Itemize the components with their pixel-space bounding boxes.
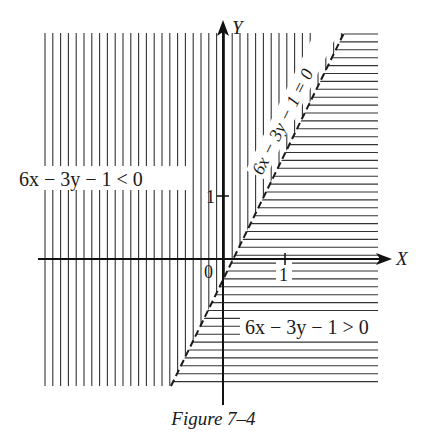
y-tick-label: 1 [206, 187, 215, 207]
x-axis-label: X [395, 248, 409, 269]
origin-label: 0 [204, 262, 213, 282]
y-axis-label: Y [232, 17, 245, 38]
x-tick-label: 1 [279, 265, 288, 285]
region-less-label: 6x − 3y − 1 < 0 [19, 168, 143, 191]
inequality-region-diagram: Y X 0 1 1 6x − 3y − 1 < 0 6x − 3y − 1 > … [0, 0, 427, 440]
region-greater-label: 6x − 3y − 1 > 0 [245, 316, 369, 339]
figure-caption: Figure 7–4 [0, 408, 427, 430]
boundary-line-label: 6x − 3y − 1 = 0 [248, 66, 318, 178]
